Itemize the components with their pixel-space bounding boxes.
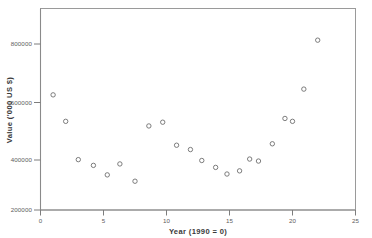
data-point	[188, 147, 192, 151]
data-point	[270, 142, 274, 146]
x-tick-label-15: 15	[226, 217, 234, 224]
data-point	[200, 158, 204, 162]
data-point	[283, 116, 287, 120]
data-point	[316, 38, 320, 42]
data-point	[118, 162, 122, 166]
x-tick-label-0: 0	[39, 217, 43, 224]
data-point	[247, 157, 251, 161]
x-tick-label-10: 10	[163, 217, 171, 224]
data-point	[213, 165, 217, 169]
data-point	[105, 173, 109, 177]
y-axis-title: Value ('000 US $)	[5, 77, 14, 144]
plot-frame	[41, 9, 356, 211]
y-tick-label-200000: 200000	[11, 206, 33, 213]
x-tick-label-25: 25	[352, 217, 360, 224]
data-point	[290, 119, 294, 123]
data-point	[51, 93, 55, 97]
data-point	[161, 120, 165, 124]
data-point	[133, 179, 137, 183]
data-point	[91, 163, 95, 167]
data-point	[76, 157, 80, 161]
x-axis-title: Year (1990 = 0)	[169, 227, 227, 236]
y-tick-label-600000: 600000	[11, 99, 33, 106]
data-point	[237, 169, 241, 173]
x-axis-ticks	[41, 210, 356, 216]
y-tick-label-800000: 800000	[11, 40, 33, 47]
y-axis-ticks	[34, 44, 41, 210]
data-point	[256, 159, 260, 163]
data-point	[147, 124, 151, 128]
x-tick-label-5: 5	[102, 217, 106, 224]
data-point	[225, 172, 229, 176]
scatter-chart: 800000 600000 400000 200000 0 5 10 15 20…	[0, 0, 372, 238]
data-points-group	[51, 38, 320, 183]
data-point	[63, 119, 67, 123]
data-point	[302, 87, 306, 91]
data-point	[174, 143, 178, 147]
y-tick-label-400000: 400000	[11, 156, 33, 163]
chart-figure: 800000 600000 400000 200000 0 5 10 15 20…	[0, 0, 372, 238]
x-tick-label-20: 20	[289, 217, 297, 224]
